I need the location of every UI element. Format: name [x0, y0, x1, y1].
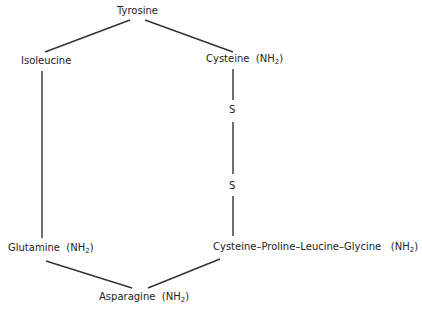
node-sulfur-2: S	[229, 180, 235, 192]
node-cysteine-top: Cysteine (NH2)	[206, 53, 283, 65]
edge-tyrosine-isoleucine	[45, 20, 130, 52]
node-label: S	[229, 180, 235, 191]
node-label: Asparagine	[99, 291, 155, 302]
amide-group: (NH	[256, 53, 275, 64]
node-label: Tyrosine	[117, 5, 158, 16]
node-glutamine: Glutamine (NH2)	[8, 242, 94, 254]
node-label: Isoleucine	[21, 55, 71, 66]
node-asparagine: Asparagine (NH2)	[99, 291, 189, 303]
node-label: Cysteine	[206, 53, 249, 64]
amide-group: (NH	[66, 242, 85, 253]
node-sulfur-1: S	[229, 104, 235, 116]
edge-chain-asparagine	[148, 259, 220, 288]
node-tyrosine: Tyrosine	[117, 5, 158, 17]
node-isoleucine: Isoleucine	[21, 55, 71, 67]
bond-lines	[0, 0, 422, 310]
node-label: S	[229, 104, 235, 115]
amide-group: (NH	[162, 291, 181, 302]
amide-group: (NH	[391, 241, 410, 252]
paren: )	[279, 53, 283, 64]
paren: )	[414, 241, 418, 252]
edge-glutamine-asparagine	[46, 261, 132, 288]
paren: )	[90, 242, 94, 253]
paren: )	[185, 291, 189, 302]
node-cysteine-chain: Cysteine–Proline–Leucine–Glycine (NH2)	[213, 241, 418, 253]
node-label: Glutamine	[8, 242, 60, 253]
edge-tyrosine-cysteine	[145, 20, 233, 52]
node-label: Cysteine–Proline–Leucine–Glycine	[213, 241, 381, 252]
